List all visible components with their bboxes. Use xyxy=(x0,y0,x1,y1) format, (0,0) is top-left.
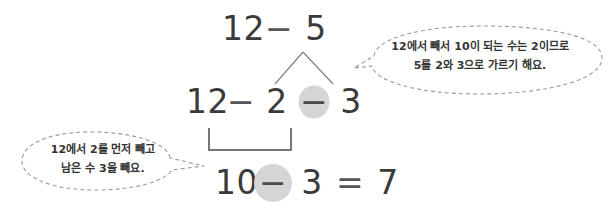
bottom-minus-glyph: − xyxy=(259,163,287,203)
top-minuend: 12 xyxy=(222,10,262,48)
callout-right-line-1: 12에서 빼서 10이 되는 수는 2이므로 xyxy=(366,37,594,56)
callout-left-line-1: 12에서 2를 먼저 빼고 xyxy=(28,140,178,159)
callout-bubble-right-text: 12에서 빼서 10이 되는 수는 2이므로 5를 2와 3으로 가르기 해요. xyxy=(366,37,594,75)
equation-middle: 12 − 2 − 3 xyxy=(186,82,370,122)
bottom-result: 7 xyxy=(369,163,407,203)
bottom-subtrahend: 3 xyxy=(293,163,331,203)
group-bracket xyxy=(209,128,291,150)
callout-right-line-2: 5를 2와 3으로 가르기 해요. xyxy=(366,56,594,75)
middle-second-minus-glyph: − xyxy=(300,82,328,122)
middle-first-minus-operator: − xyxy=(224,82,258,122)
equation-top: 12 − 5 xyxy=(222,10,336,48)
branch-line-left xyxy=(275,52,303,84)
callout-left-line-2: 남은 수 3을 빼요. xyxy=(28,159,178,178)
equation-bottom: 10 − 3 = 7 xyxy=(215,163,407,203)
branch-line-right xyxy=(303,52,333,84)
middle-minuend: 12 xyxy=(186,82,224,122)
worksheet-canvas: 12 − 5 12 − 2 − 3 10 − 3 = 7 12에서 빼서 10이… xyxy=(0,0,609,216)
callout-bubble-left: 12에서 2를 먼저 빼고 남은 수 3을 빼요. xyxy=(18,128,208,194)
bottom-minuend: 10 xyxy=(215,163,253,203)
top-subtrahend: 5 xyxy=(296,10,336,48)
bottom-equals-sign: = xyxy=(331,163,369,203)
middle-part-one: 2 xyxy=(258,82,296,122)
callout-bubble-right: 12에서 빼서 10이 되는 수는 2이므로 5를 2와 3으로 가르기 해요. xyxy=(352,22,607,100)
bottom-highlighted-minus-operator: − xyxy=(253,163,293,203)
top-minus-operator: − xyxy=(262,10,296,48)
middle-highlighted-minus-operator: − xyxy=(296,82,332,122)
callout-bubble-left-text: 12에서 2를 먼저 빼고 남은 수 3을 빼요. xyxy=(28,140,178,178)
